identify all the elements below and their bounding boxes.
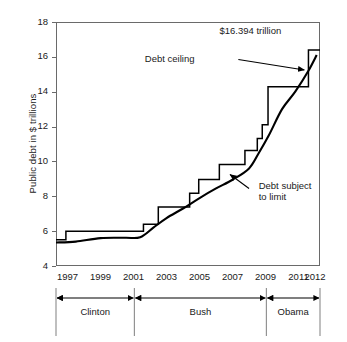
term-label-obama: Obama bbox=[278, 306, 309, 317]
chart-figure: Public debt in $ trillions 4681012141618… bbox=[0, 0, 347, 342]
term-label-clinton: Clinton bbox=[80, 306, 110, 317]
presidential-term-band bbox=[0, 0, 347, 342]
term-label-bush: Bush bbox=[190, 306, 212, 317]
term-range-arrow-left bbox=[135, 295, 141, 301]
term-range-arrow-left bbox=[57, 295, 63, 301]
term-range-arrow-left bbox=[267, 295, 273, 301]
